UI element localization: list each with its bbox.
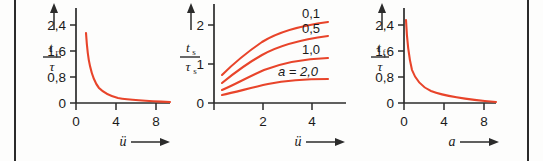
chart-panel-c: 0 0,8 1,6 2,4 0 4 8 t f τ a — [356, 0, 526, 161]
panel-a-xtick-label-0: 0 — [72, 114, 80, 129]
figure-container: 0 0,8 1,6 2,4 0 4 8 t r τ ü — [0, 0, 543, 161]
panel-a-x-var: ü — [120, 134, 127, 149]
panel-c-x-axis-label: a — [449, 134, 500, 149]
chart-panel-b: 0 1 2 2 4 t s τ s ü — [178, 0, 356, 161]
panel-b-x-var: ü — [295, 134, 302, 149]
panel-a-xtick-label-1: 4 — [112, 114, 120, 129]
panel-a-ytick-label-0: 0 — [58, 96, 66, 111]
panel-b-curve-label-1: 0,5 — [302, 21, 320, 36]
panel-b-xtick-label-1: 2 — [259, 114, 267, 129]
right-border-rule — [527, 0, 529, 161]
panel-b-ytick-label-2: 2 — [196, 18, 204, 33]
panel-b-y-num: t — [186, 40, 191, 55]
panel-a-ytick-label-3: 2,4 — [47, 18, 66, 33]
panel-a-curve — [86, 33, 170, 102]
panel-c-xtick-label-1: 4 — [440, 114, 448, 129]
panel-c-x-var: a — [449, 134, 456, 149]
panel-b-x-axis-label: ü — [295, 134, 346, 149]
panel-b-y-den: τ — [186, 59, 192, 74]
left-border-rule — [14, 0, 16, 161]
panel-b-y-axis-arrow-icon — [187, 3, 195, 30]
panel-b-curve-label-0: 0,1 — [302, 6, 320, 21]
panel-c-xtick-label-2: 8 — [480, 114, 488, 129]
panel-c-ytick-label-0: 0 — [386, 96, 394, 111]
panel-c-ytick-label-3: 2,4 — [375, 18, 394, 33]
panel-b-y-num-sub: s — [192, 47, 196, 57]
panel-b-curve-label-3: a = 2,0 — [278, 64, 319, 79]
panel-a-x-axis-label: ü — [120, 134, 171, 149]
chart-panel-a: 0 0,8 1,6 2,4 0 4 8 t r τ ü — [18, 0, 178, 161]
panel-b-xtick-label-2: 4 — [308, 114, 316, 129]
panel-b-y-den-sub: s — [193, 66, 197, 76]
panel-c-y-num-sub: f — [383, 47, 386, 57]
panel-b-curve-label-2: 1,0 — [302, 42, 320, 57]
panel-c-curve — [406, 20, 496, 102]
panel-a-xtick-label-2: 8 — [152, 114, 160, 129]
panel-b-ytick-label-0: 0 — [196, 96, 204, 111]
panel-c-xtick-label-0: 0 — [400, 114, 408, 129]
panel-b-ytick-label-1: 1 — [196, 57, 204, 72]
panel-a-y-num-sub: r — [56, 47, 59, 57]
